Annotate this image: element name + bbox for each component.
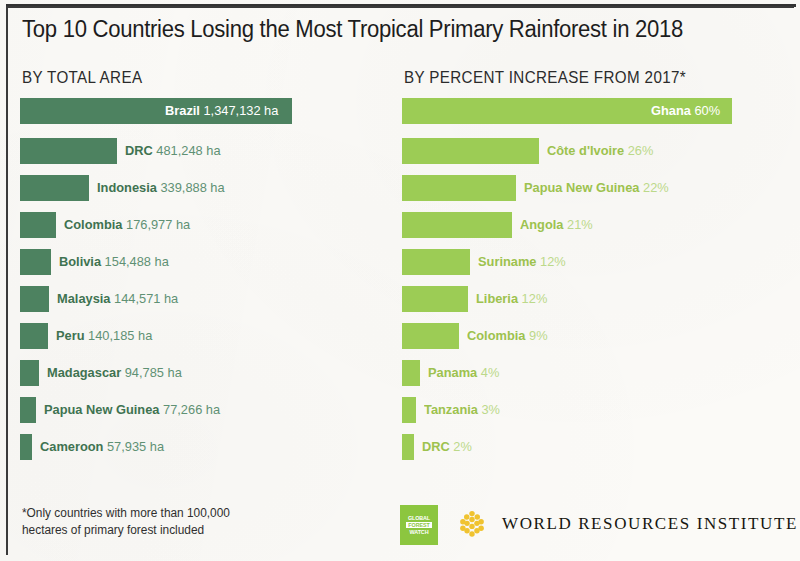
bar-value-label: 144,571 ha (110, 291, 178, 306)
bar-value-label: 339,888 ha (157, 180, 225, 195)
bar-country-name: Tanzania (424, 402, 478, 417)
bar-value-label: 9% (525, 328, 547, 343)
bar-row: DRC 2% (402, 432, 782, 469)
wri-wordmark: WORLD RESOURCES INSTITUTE (502, 514, 798, 534)
bar-label: Colombia 9% (467, 325, 548, 346)
bar (20, 249, 51, 275)
bar-country-name: Panama (428, 365, 477, 380)
bar-value-label: 2% (450, 439, 472, 454)
bar (402, 397, 416, 423)
global-forest-watch-logo: GLOBAL FOREST WATCH (400, 505, 438, 545)
section-heading-percent-increase: BY PERCENT INCREASE FROM 2017* (404, 68, 686, 87)
bar-row: Côte d'Ivoire 26% (402, 136, 782, 173)
bar (20, 138, 117, 164)
bar-country-name: Cameroon (40, 439, 103, 454)
chart-by-total-area: Brazil 1,347,132 haDRC 481,248 haIndones… (20, 96, 390, 469)
bar-row: Papua New Guinea 22% (402, 173, 782, 210)
bar-row: Colombia 9% (402, 321, 782, 358)
bar-country-name: Indonesia (97, 180, 157, 195)
bar-row: Liberia 12% (402, 284, 782, 321)
bar-country-name: Malaysia (57, 291, 110, 306)
bar-row: Brazil 1,347,132 ha (20, 96, 390, 136)
bar (402, 138, 539, 164)
bar (20, 175, 89, 201)
bar (402, 434, 414, 460)
bar-country-name: DRC (125, 143, 153, 158)
bar-label: Côte d'Ivoire 26% (547, 140, 653, 161)
gfw-logo-line-1: GLOBAL (408, 515, 430, 521)
bar-row: Malaysia 144,571 ha (20, 284, 390, 321)
bar-country-name: Liberia (476, 291, 518, 306)
bar (20, 323, 48, 349)
bar-value-label: 481,248 ha (153, 143, 221, 158)
bar-label: Panama 4% (428, 362, 499, 383)
bar-label: Bolivia 154,488 ha (59, 251, 169, 272)
gfw-logo-line-2: FOREST (406, 522, 431, 528)
bar (20, 397, 36, 423)
bar-country-name: Papua New Guinea (524, 180, 639, 195)
bar-row: Cameroon 57,935 ha (20, 432, 390, 469)
bar-label: Suriname 12% (478, 251, 566, 272)
bar-row: Bolivia 154,488 ha (20, 247, 390, 284)
bar (20, 212, 56, 238)
bar-value-label: 57,935 ha (103, 439, 164, 454)
bar-label: Ghana 60% (651, 100, 720, 121)
bar-value-label: 4% (477, 365, 499, 380)
bar-label: Brazil 1,347,132 ha (165, 100, 278, 121)
bar (402, 212, 512, 238)
bar-value-label: 94,785 ha (121, 365, 182, 380)
bar-label: Tanzania 3% (424, 399, 500, 420)
bar (402, 360, 420, 386)
bar-label: DRC 481,248 ha (125, 140, 221, 161)
bar-value-label: 26% (624, 143, 653, 158)
bar-country-name: Colombia (64, 217, 122, 232)
bar-country-name: Angola (520, 217, 563, 232)
bar-row: Indonesia 339,888 ha (20, 173, 390, 210)
bar-value-label: 12% (518, 291, 547, 306)
bar-row: Panama 4% (402, 358, 782, 395)
gfw-logo-line-3: WATCH (410, 529, 429, 535)
bar-label: Angola 21% (520, 214, 593, 235)
bar-label: Malaysia 144,571 ha (57, 288, 178, 309)
footnote-line-2: hectares of primary forest included (22, 522, 230, 539)
page-title: Top 10 Countries Losing the Most Tropica… (22, 16, 683, 43)
bar (402, 249, 470, 275)
bar-value-label: 21% (563, 217, 592, 232)
bar-country-name: Suriname (478, 254, 536, 269)
bar-value-label: 77,266 ha (159, 402, 220, 417)
bar-label: Colombia 176,977 ha (64, 214, 190, 235)
bar-value-label: 176,977 ha (122, 217, 190, 232)
bar-country-name: Peru (56, 328, 85, 343)
bar-country-name: DRC (422, 439, 450, 454)
bar-row: DRC 481,248 ha (20, 136, 390, 173)
bar-value-label: 3% (478, 402, 500, 417)
bar-row: Madagascar 94,785 ha (20, 358, 390, 395)
bar-value-label: 154,488 ha (101, 254, 169, 269)
bar (402, 286, 468, 312)
bar-row: Suriname 12% (402, 247, 782, 284)
bar-label: Madagascar 94,785 ha (47, 362, 182, 383)
bar-row: Angola 21% (402, 210, 782, 247)
world-resources-institute-branding: WORLD RESOURCES INSTITUTE (456, 508, 798, 540)
footnote: *Only countries with more than 100,000 h… (22, 505, 230, 539)
bar-label: Indonesia 339,888 ha (97, 177, 225, 198)
bar-row: Ghana 60% (402, 96, 782, 136)
bar-label: Papua New Guinea 77,266 ha (44, 399, 220, 420)
section-heading-total-area: BY TOTAL AREA (22, 68, 142, 87)
bar-label: Papua New Guinea 22% (524, 177, 669, 198)
wri-lattice-logo-icon (456, 508, 488, 540)
bar-country-name: Brazil (165, 103, 200, 118)
bar-label: Liberia 12% (476, 288, 547, 309)
bar-label: DRC 2% (422, 436, 472, 457)
bar (402, 323, 459, 349)
bar-row: Papua New Guinea 77,266 ha (20, 395, 390, 432)
frame-top-rule (6, 4, 796, 7)
bar-value-label: 140,185 ha (85, 328, 153, 343)
bar (402, 175, 516, 201)
chart-by-percent-increase: Ghana 60%Côte d'Ivoire 26%Papua New Guin… (402, 96, 782, 469)
footnote-line-1: *Only countries with more than 100,000 (22, 505, 230, 522)
bar-value-label: 22% (639, 180, 668, 195)
bar-label: Cameroon 57,935 ha (40, 436, 164, 457)
bar-value-label: 60% (691, 103, 720, 118)
bar (20, 360, 39, 386)
